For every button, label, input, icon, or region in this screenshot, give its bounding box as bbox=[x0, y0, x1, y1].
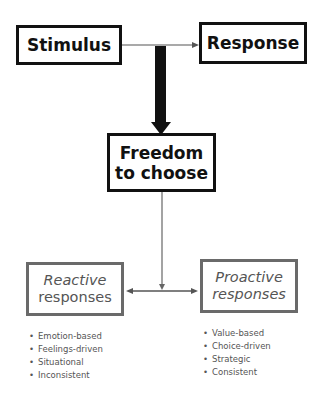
response-label: Response bbox=[207, 33, 299, 53]
freedom-label-line1: Freedom bbox=[115, 143, 208, 163]
list-item: Strategic bbox=[203, 353, 271, 366]
list-item: Inconsistent bbox=[29, 369, 103, 382]
list-item: Situational bbox=[29, 356, 103, 369]
proactive-box: Proactive responses bbox=[200, 259, 298, 313]
stimulus-to-freedom-arrow bbox=[155, 46, 166, 124]
proactive-label-line1: Proactive bbox=[212, 269, 286, 286]
stimulus-label: Stimulus bbox=[27, 35, 111, 55]
list-item: Emotion-based bbox=[29, 330, 103, 343]
arrowhead-icon bbox=[192, 42, 199, 48]
proactive-traits-list: Value-based Choice-driven Strategic Cons… bbox=[203, 327, 271, 379]
list-item: Choice-driven bbox=[203, 340, 271, 353]
freedom-box: Freedom to choose bbox=[107, 133, 216, 192]
reactive-label-line2: responses bbox=[38, 289, 111, 306]
reactive-box: Reactive responses bbox=[26, 262, 124, 316]
freedom-label-line2: to choose bbox=[115, 163, 208, 183]
list-item: Feelings-driven bbox=[29, 343, 103, 356]
reactive-traits-list: Emotion-based Feelings-driven Situationa… bbox=[29, 330, 103, 382]
arrowhead-icon bbox=[126, 288, 133, 294]
proactive-label-line2: responses bbox=[212, 286, 286, 303]
reactive-label-line1: Reactive bbox=[38, 272, 111, 289]
list-item: Consistent bbox=[203, 366, 271, 379]
arrowhead-icon bbox=[159, 284, 165, 290]
response-box: Response bbox=[199, 22, 307, 64]
list-item: Value-based bbox=[203, 327, 271, 340]
stimulus-box: Stimulus bbox=[16, 25, 122, 65]
arrowhead-icon bbox=[191, 288, 198, 294]
